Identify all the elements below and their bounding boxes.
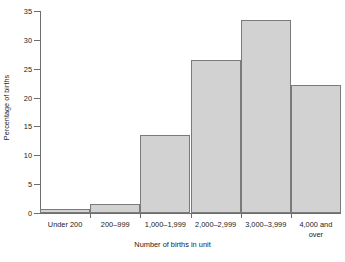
y-axis-tick-label: 10 [0,151,32,160]
plot-area [40,11,341,213]
histogram-chart: Percentage of births 05101520253035 Unde… [0,0,345,262]
x-axis-tick [90,213,91,218]
y-axis-tick-label: 0 [0,209,32,218]
bar [291,85,341,213]
y-axis-tick-label: 15 [0,122,32,131]
x-axis-category-label: 2,000–2,999 [188,220,244,230]
y-axis-tick-label: 5 [0,180,32,189]
x-axis-title: Number of births in unit [0,240,345,249]
y-axis-tick-label: 35 [0,7,32,16]
x-axis-category-label: 1,000–1,999 [137,220,193,230]
x-axis-category-label: 4,000 and over [288,220,344,239]
x-axis-category-label: 3,000–3,999 [238,220,294,230]
x-axis-tick [241,213,242,218]
x-axis-tick [191,213,192,218]
bar [241,20,291,213]
bar [140,135,190,213]
x-axis-tick [140,213,141,218]
x-axis-category-label: Under 200 [37,220,93,230]
bar [40,209,90,213]
y-axis-tick [34,213,40,214]
bar [191,60,241,213]
x-axis-tick [291,213,292,218]
bar [90,204,140,213]
x-axis-category-label: 200–999 [87,220,143,230]
y-axis-tick-label: 30 [0,35,32,44]
y-axis-tick-label: 20 [0,93,32,102]
y-axis-tick-label: 25 [0,64,32,73]
